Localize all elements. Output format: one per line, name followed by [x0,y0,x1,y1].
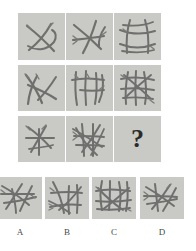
stick-figure-option-b [45,177,89,219]
stick-figure-option-a [0,177,42,219]
stick-figure-option-d [140,177,184,219]
stick-figure-r1c1 [18,13,65,60]
option-label-d: D [140,228,184,237]
matrix-cell-r1c2[interactable] [66,13,113,60]
stick-figure-r1c2 [66,13,113,60]
option-d-tile[interactable] [140,177,184,219]
option-label-b: B [45,228,89,237]
stick-figure-r1c3 [114,13,161,60]
stick-figure-r2c1 [18,65,65,111]
question-mark: ? [114,116,161,162]
matrix-cell-r2c2[interactable] [66,65,113,111]
matrix-cell-r1c3[interactable] [114,13,161,60]
matrix-cell-r3c1[interactable] [18,116,65,162]
stick-figure-r2c2 [66,65,113,111]
matrix-reasoning-puzzle: ? [0,0,196,251]
option-a-tile[interactable] [0,177,42,219]
matrix-cell-r2c3[interactable] [114,65,161,111]
matrix-cell-r2c1[interactable] [18,65,65,111]
option-b-tile[interactable] [45,177,89,219]
stick-figure-r3c1 [18,116,65,162]
matrix-cell-r3c2[interactable] [66,116,113,162]
option-c-tile[interactable] [92,177,136,219]
option-label-a: A [0,228,40,237]
stick-figure-r3c2 [66,116,113,162]
stick-figure-option-c [92,177,136,219]
stick-figure-r2c3 [114,65,161,111]
matrix-cell-r1c1[interactable] [18,13,65,60]
option-label-c: C [92,228,136,237]
